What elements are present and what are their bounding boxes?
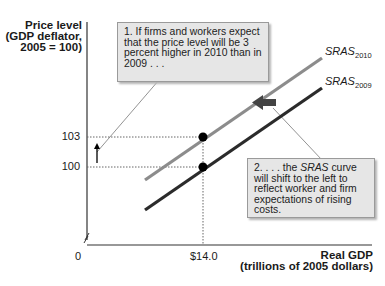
up-arrowhead-icon bbox=[94, 143, 100, 149]
y-axis-title: Price level (GDP deflator, 2005 = 100) bbox=[0, 20, 82, 53]
shift-arrow-shaft bbox=[262, 99, 276, 106]
point-2010 bbox=[199, 133, 208, 142]
y-title-line-3: 2005 = 100) bbox=[0, 42, 82, 53]
x-tick-14: $14.0 bbox=[190, 250, 218, 262]
x-title-line-2: (trillions of 2005 dollars) bbox=[240, 261, 373, 272]
y-tick-100: 100 bbox=[62, 160, 80, 172]
shift-arrow-left-icon bbox=[252, 95, 263, 110]
sras-2010-label: SRAS2010 bbox=[325, 45, 372, 60]
leader-line-1 bbox=[97, 73, 165, 152]
callout-box-1: 1. If firms and workers expect that the … bbox=[117, 22, 269, 82]
x-axis-title: Real GDP (trillions of 2005 dollars) bbox=[240, 250, 373, 272]
point-2009 bbox=[199, 163, 208, 172]
origin-label: 0 bbox=[75, 250, 81, 262]
y-tick-103: 103 bbox=[62, 130, 80, 142]
callout-box-2: 2. . . . the SRAS curve will shift to th… bbox=[247, 158, 375, 218]
sras-2009-label: SRAS2009 bbox=[325, 75, 372, 90]
